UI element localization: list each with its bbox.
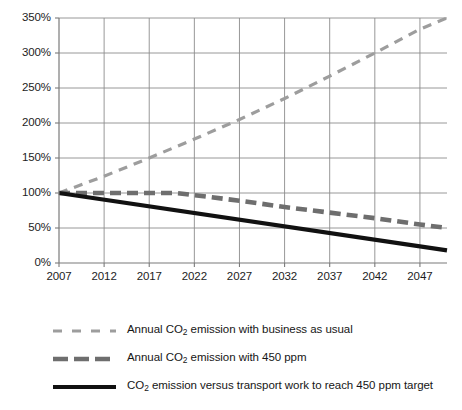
legend-label-0: Annual CO2 emission with business as usu… xyxy=(127,323,353,335)
x-axis-label: 2032 xyxy=(263,270,307,282)
x-axis-label: 2012 xyxy=(82,270,126,282)
y-axis-label: 350% xyxy=(5,11,51,23)
figure-co2-emission-chart: 0%50%100%150%200%250%300%350% 2007201220… xyxy=(0,0,462,410)
x-axis-label: 2027 xyxy=(217,270,261,282)
y-axis-label: 100% xyxy=(5,186,51,198)
y-axis-label: 150% xyxy=(5,151,51,163)
x-axis-label: 2007 xyxy=(37,270,81,282)
legend-item-0: Annual CO2 emission with business as usu… xyxy=(53,318,353,340)
y-axis-label: 200% xyxy=(5,116,51,128)
legend-item-1: Annual CO2 emission with 450 ppm xyxy=(53,346,307,368)
y-axis-label: 50% xyxy=(5,221,51,233)
x-axis-label: 2017 xyxy=(127,270,171,282)
x-axis-label: 2042 xyxy=(353,270,397,282)
y-axis-label: 0% xyxy=(5,256,51,268)
x-axis-label: 2047 xyxy=(398,270,442,282)
tick-marks-group xyxy=(55,18,420,267)
dashed-light-swatch xyxy=(53,323,116,335)
gridlines-group xyxy=(59,18,447,263)
x-axis-label: 2037 xyxy=(308,270,352,282)
axes-group xyxy=(59,18,447,263)
solid-swatch xyxy=(53,379,116,391)
legend-item-2: CO2 emission versus transport work to re… xyxy=(53,374,433,396)
x-axis-label: 2022 xyxy=(172,270,216,282)
legend-label-2: CO2 emission versus transport work to re… xyxy=(127,379,433,391)
y-axis-label: 300% xyxy=(5,46,51,58)
chart-legend: Annual CO2 emission with business as usu… xyxy=(0,318,462,396)
series-line-0 xyxy=(59,18,447,193)
legend-label-1: Annual CO2 emission with 450 ppm xyxy=(127,351,307,363)
dashed-heavy-swatch xyxy=(53,351,116,363)
y-axis-label: 250% xyxy=(5,81,51,93)
